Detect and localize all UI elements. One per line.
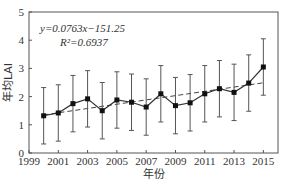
data-point-marker [232,90,237,95]
x-tick-label: 2005 [106,155,129,167]
y-tick-label: 1 [19,119,25,131]
trend-line [44,83,264,115]
x-tick-label: 2015 [252,155,275,167]
data-point-marker [41,113,46,118]
data-point-marker [173,103,178,108]
y-axis-label: 年均LAI [1,63,15,102]
r-squared-label: R²=0.6937 [59,36,108,48]
data-point-marker [144,105,149,110]
lai-trend-chart: 0123451999200120032005200720092011201320… [0,0,285,186]
y-tick-label: 4 [19,34,25,46]
data-point-marker [158,91,163,96]
x-tick-label: 2009 [164,155,187,167]
x-tick-label: 2001 [47,155,69,167]
data-point-marker [114,97,119,102]
x-tick-label: 1999 [18,155,41,167]
data-point-marker [217,86,222,91]
data-point-marker [56,110,61,115]
data-point-marker [261,64,266,69]
data-point-marker [129,100,134,105]
data-point-marker [202,91,207,96]
regression-equation: y=0.0763x−151.25 [39,22,126,34]
y-tick-label: 5 [19,6,25,18]
x-axis-label: 年份 [143,167,165,181]
data-point-marker [70,101,75,106]
x-tick-label: 2003 [77,155,100,167]
data-line [44,67,264,116]
data-point-marker [85,96,90,101]
x-tick-label: 2007 [135,155,158,167]
x-tick-label: 2011 [194,155,216,167]
y-tick-label: 2 [19,91,25,103]
data-point-marker [246,81,251,86]
data-point-marker [100,108,105,113]
data-point-marker [188,100,193,105]
x-tick-label: 2013 [223,155,246,167]
y-tick-label: 3 [19,62,25,74]
